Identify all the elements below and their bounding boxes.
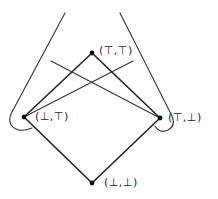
node-bottom: [90, 181, 95, 186]
cross-line-2: [24, 61, 133, 117]
label-top: (⊤,⊤): [99, 45, 133, 56]
edge-left-top: [24, 53, 92, 117]
node-left: [22, 115, 27, 120]
edge-bottom-left: [24, 117, 92, 183]
node-right: [158, 116, 163, 121]
label-right: (⊤,⊥): [168, 112, 202, 123]
node-top: [90, 51, 95, 56]
lattice-diagram: [0, 0, 218, 199]
edge-right-top: [92, 53, 160, 118]
edge-bottom-right: [92, 118, 160, 183]
right-outer-curve: [120, 13, 173, 131]
label-left: (⊥,⊤): [35, 111, 69, 122]
label-bottom: (⊥,⊥): [104, 177, 138, 188]
